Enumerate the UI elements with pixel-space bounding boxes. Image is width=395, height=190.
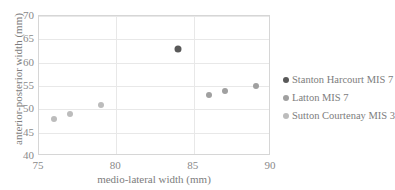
- x-tick-label-80: 80: [95, 160, 135, 171]
- plot-area: [38, 15, 270, 155]
- data-point: [175, 45, 182, 52]
- gridline-x-85: [194, 16, 195, 154]
- gridline-x-80: [116, 16, 117, 154]
- legend-item[interactable]: Latton MIS 7: [283, 90, 395, 106]
- x-tick-label-90: 90: [250, 160, 290, 171]
- data-point: [253, 83, 259, 89]
- gridline-y-50: [39, 109, 269, 110]
- y-axis-title: anterior-posterior width (mm): [12, 0, 24, 159]
- data-point: [206, 92, 212, 98]
- legend-marker-icon: [283, 95, 289, 101]
- legend-marker-icon: [283, 113, 289, 119]
- scatter-chart-figure: 40455055606570 75808590 medio-lateral wi…: [0, 0, 395, 190]
- x-tick-label-85: 85: [173, 160, 213, 171]
- x-axis-tick-labels: 75808590: [38, 160, 270, 174]
- x-axis-title: medio-lateral width (mm): [38, 173, 270, 185]
- data-point: [222, 88, 228, 94]
- gridline-y-65: [39, 39, 269, 40]
- gridline-y-60: [39, 63, 269, 64]
- x-tick-label-75: 75: [18, 160, 58, 171]
- data-point: [67, 111, 73, 117]
- legend-item[interactable]: Stanton Harcourt MIS 7: [283, 72, 395, 88]
- legend-item[interactable]: Sutton Courtenay MIS 3: [283, 108, 395, 124]
- legend-label: Sutton Courtenay MIS 3: [292, 110, 395, 122]
- legend-label: Latton MIS 7: [292, 92, 349, 104]
- gridline-y-55: [39, 86, 269, 87]
- legend-label: Stanton Harcourt MIS 7: [292, 74, 393, 86]
- chart-title: [0, 0, 280, 5]
- legend-marker-icon: [283, 77, 289, 83]
- gridline-y-45: [39, 133, 269, 134]
- chart-legend: Stanton Harcourt MIS 7Latton MIS 7Sutton…: [283, 72, 395, 126]
- gridline-y-70: [39, 16, 269, 17]
- data-point: [98, 102, 104, 108]
- data-point: [51, 116, 57, 122]
